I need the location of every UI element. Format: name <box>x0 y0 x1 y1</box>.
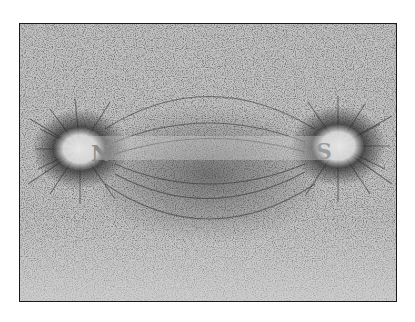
iron-filings-pattern <box>20 24 396 301</box>
photo-frame: N S <box>19 23 397 302</box>
north-pole-label: N <box>91 142 111 164</box>
south-pole-label: S <box>316 140 332 162</box>
